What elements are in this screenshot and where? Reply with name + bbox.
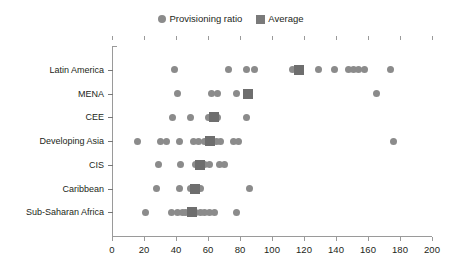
y-axis-category-label: CEE [85,112,104,122]
data-point-marker [169,114,176,121]
data-point-marker [206,161,213,168]
data-point-marker [153,185,160,192]
x-axis-tick-bottom [272,237,273,241]
average-marker [243,89,253,99]
data-point-marker [134,138,141,145]
data-point-marker [142,209,149,216]
x-axis-tick-label: 60 [203,244,214,255]
x-axis-tick-label: 80 [235,244,246,255]
x-axis-tick-label: 140 [328,244,344,255]
y-axis-tick [108,117,113,118]
average-marker [190,184,200,194]
data-point-marker [331,66,338,73]
average-marker [209,112,219,122]
x-axis-tick-label: 20 [139,244,150,255]
y-axis-category-label: Developing Asia [39,136,104,146]
legend-entry-average: Average [256,14,303,24]
data-point-marker [163,138,170,145]
data-point-marker [315,66,322,73]
y-axis-tick [108,70,113,71]
x-axis-tick-top [272,36,273,40]
x-axis-tick-top [336,36,337,40]
y-axis-tick [108,94,113,95]
x-axis-tick-label: 0 [109,244,114,255]
legend-entry-provisioning-ratio: Provisioning ratio [158,14,242,24]
average-marker [294,65,304,75]
x-axis-tick-label: 160 [360,244,376,255]
data-point-marker [176,185,183,192]
legend-label-average: Average [268,14,303,24]
x-axis-tick-bottom [368,237,369,241]
x-axis-tick-top [304,36,305,40]
x-axis-tick-bottom [400,237,401,241]
x-axis-tick-top [240,36,241,40]
data-point-marker [221,161,228,168]
data-point-marker [174,90,181,97]
data-point-marker [187,114,194,121]
x-axis-tick-label: 100 [264,244,280,255]
x-axis-tick-top [432,36,433,40]
y-axis-category-label: MENA [78,89,104,99]
x-axis-tick-bottom [176,237,177,241]
x-axis-tick-bottom [336,237,337,241]
data-point-marker [211,209,218,216]
x-axis-tick-bottom [304,237,305,241]
data-point-marker [176,138,183,145]
data-point-marker [246,185,253,192]
data-point-marker [251,66,258,73]
legend-label-provisioning-ratio: Provisioning ratio [169,14,242,24]
x-axis-tick-top [176,36,177,40]
data-point-marker [177,161,184,168]
data-point-marker [233,90,240,97]
plot-area: 020406080100120140160180200Latin America… [112,46,432,236]
x-axis-tick-top [112,36,113,40]
y-axis-category-label: Latin America [49,65,104,75]
data-point-marker [217,138,224,145]
y-axis-tick [108,165,113,166]
x-axis-tick-label: 200 [424,244,440,255]
average-marker [195,160,205,170]
y-axis-tick [108,141,113,142]
data-point-marker [171,66,178,73]
data-point-marker [235,138,242,145]
x-axis-tick-bottom [208,237,209,241]
y-axis-category-label: Caribbean [62,184,104,194]
data-point-marker [361,66,368,73]
x-axis-tick-bottom [432,237,433,241]
x-axis-tick-label: 40 [171,244,182,255]
circle-marker-icon [158,15,166,23]
y-axis-tick [108,212,113,213]
x-axis-tick-top [368,36,369,40]
data-point-marker [155,161,162,168]
square-marker-icon [256,15,265,24]
data-point-marker [233,209,240,216]
x-axis-tick-top [144,36,145,40]
data-point-marker [214,90,221,97]
chart-legend: Provisioning ratio Average [0,14,462,24]
x-axis-tick-bottom [240,237,241,241]
x-axis-tick-bottom [144,237,145,241]
average-marker [205,136,215,146]
x-axis-tick-top [208,36,209,40]
x-axis-tick-bottom [112,237,113,241]
data-point-marker [243,66,250,73]
data-point-marker [390,138,397,145]
y-axis-category-label: CIS [89,160,104,170]
x-axis-tick-label: 180 [392,244,408,255]
data-point-marker [243,114,250,121]
y-axis-top-cap [112,46,117,47]
data-point-marker [373,90,380,97]
x-axis-tick-top [400,36,401,40]
provisioning-ratio-scatter-chart: Provisioning ratio Average 0204060801001… [0,0,462,271]
average-marker [187,207,197,217]
x-axis-tick-label: 120 [296,244,312,255]
data-point-marker [387,66,394,73]
y-axis-category-label: Sub-Saharan Africa [26,207,104,217]
y-axis-tick [108,189,113,190]
data-point-marker [225,66,232,73]
